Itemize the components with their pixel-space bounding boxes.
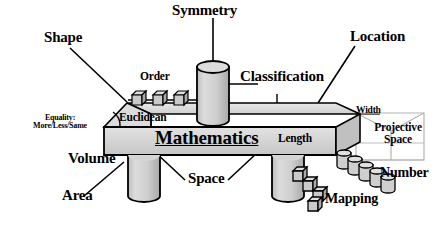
label-mapping: Mapping [325,192,378,206]
label-length: Length [278,133,312,145]
symmetry-cylinder [197,61,229,126]
mapping-cube-4 [308,197,322,211]
order-cube-2 [153,91,167,105]
label-equality-line2: More/Less/Same [22,122,98,130]
mathematics-concept-diagram: Symmetry Shape Location Order Classifica… [0,0,433,225]
label-symmetry: Symmetry [172,3,237,18]
leg-left-cylinder [128,155,160,202]
label-order: Order [140,71,170,83]
label-mathematics: Mathematics [155,128,258,147]
label-shape: Shape [44,30,82,45]
label-volume: Volume [68,151,115,166]
label-number: Number [380,166,429,180]
label-projective-line1: Projective [362,122,433,134]
label-projective-space: Projective Space [362,122,433,145]
order-cube-3 [174,91,188,105]
label-area: Area [62,188,93,203]
leader-space-right [228,152,258,180]
label-classification: Classification [240,69,324,84]
order-cube-1 [132,91,146,105]
label-location: Location [350,29,405,44]
label-equality: Equality: More/Less/Same [22,114,98,131]
label-projective-line2: Space [362,134,433,146]
label-width: Width [356,106,381,116]
label-space: Space [188,171,225,186]
label-euclidean: Euclidean [119,112,166,124]
leader-shape [70,48,127,102]
